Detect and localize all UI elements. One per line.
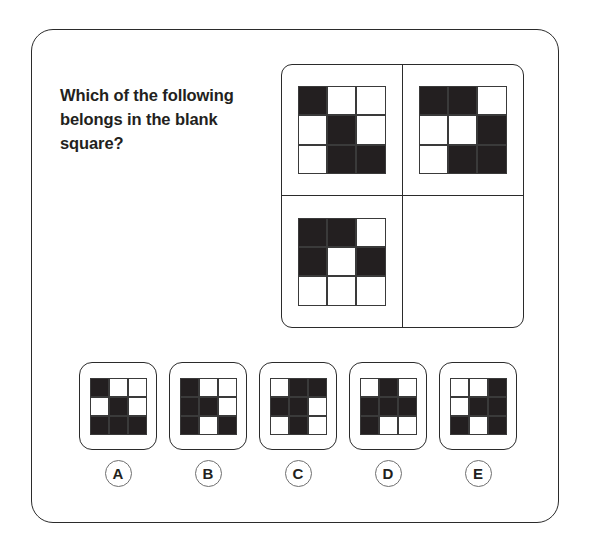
page-root: Which of the following belongs in the bl… (0, 0, 592, 558)
option-label-c[interactable]: C (285, 460, 312, 487)
grid-cell-r1c1 (180, 378, 199, 397)
grid-cell-r2c3 (128, 397, 147, 416)
answer-option-b[interactable]: B (168, 362, 248, 487)
matrix-top-left-grid (298, 86, 386, 174)
grid-cell-r1c1 (419, 86, 448, 115)
grid-cell-r2c2 (327, 247, 356, 276)
option-label-e[interactable]: E (465, 460, 492, 487)
grid-cell-r1c1 (450, 378, 469, 397)
grid-cell-r1c1 (90, 378, 109, 397)
option-card-e[interactable] (439, 362, 517, 450)
option-card-d[interactable] (349, 362, 427, 450)
grid-cell-r1c2 (469, 378, 488, 397)
grid-cell-r2c2 (448, 115, 477, 144)
grid-cell-r1c1 (270, 378, 289, 397)
grid-cell-r1c1 (360, 378, 379, 397)
grid-cell-r2c1 (450, 397, 469, 416)
grid-cell-r3c2 (199, 416, 218, 435)
matrix-cell-bottom-right-blank (403, 196, 524, 327)
grid-cell-r1c3 (218, 378, 237, 397)
option-d-grid (360, 378, 417, 435)
grid-cell-r1c2 (199, 378, 218, 397)
grid-cell-r2c2 (109, 397, 128, 416)
grid-cell-r3c1 (419, 145, 448, 174)
answer-options: ABCDE (78, 362, 518, 494)
option-label-b[interactable]: B (195, 460, 222, 487)
grid-cell-r2c1 (360, 397, 379, 416)
grid-cell-r2c3 (398, 397, 417, 416)
option-b-grid (180, 378, 237, 435)
grid-cell-r1c2 (109, 378, 128, 397)
grid-cell-r2c3 (488, 397, 507, 416)
grid-cell-r1c3 (356, 218, 385, 247)
answer-option-a[interactable]: A (78, 362, 158, 487)
grid-cell-r3c2 (289, 416, 308, 435)
grid-cell-r1c2 (289, 378, 308, 397)
grid-cell-r1c2 (379, 378, 398, 397)
grid-cell-r3c1 (450, 416, 469, 435)
option-c-grid (270, 378, 327, 435)
grid-cell-r2c3 (356, 115, 385, 144)
grid-cell-r2c3 (218, 397, 237, 416)
question-card: Which of the following belongs in the bl… (31, 29, 559, 523)
grid-cell-r3c3 (477, 145, 506, 174)
grid-cell-r1c2 (448, 86, 477, 115)
option-card-a[interactable] (79, 362, 157, 450)
matrix-top-right-grid (419, 86, 507, 174)
grid-cell-r3c2 (469, 416, 488, 435)
grid-cell-r1c2 (327, 86, 356, 115)
grid-cell-r2c1 (419, 115, 448, 144)
matrix-bottom-left-grid (298, 218, 386, 306)
grid-cell-r3c3 (128, 416, 147, 435)
matrix-cell-top-right (403, 65, 524, 196)
grid-cell-r2c1 (90, 397, 109, 416)
grid-cell-r3c2 (448, 145, 477, 174)
grid-cell-r3c1 (270, 416, 289, 435)
grid-cell-r3c3 (356, 276, 385, 305)
grid-cell-r2c1 (298, 247, 327, 276)
grid-cell-r3c2 (327, 145, 356, 174)
grid-cell-r1c3 (128, 378, 147, 397)
matrix-cell-bottom-left (282, 196, 403, 327)
grid-cell-r3c3 (398, 416, 417, 435)
grid-cell-r2c2 (327, 115, 356, 144)
grid-cell-r2c3 (477, 115, 506, 144)
grid-cell-r2c2 (469, 397, 488, 416)
matrix-cell-top-left (282, 65, 403, 196)
answer-option-c[interactable]: C (258, 362, 338, 487)
answer-option-e[interactable]: E (438, 362, 518, 487)
grid-cell-r3c3 (218, 416, 237, 435)
grid-cell-r1c3 (477, 86, 506, 115)
grid-cell-r1c1 (298, 86, 327, 115)
grid-cell-r3c2 (379, 416, 398, 435)
grid-cell-r3c3 (308, 416, 327, 435)
option-label-a[interactable]: A (105, 460, 132, 487)
grid-cell-r2c3 (356, 247, 385, 276)
option-e-grid (450, 378, 507, 435)
grid-cell-r2c3 (308, 397, 327, 416)
grid-cell-r3c1 (180, 416, 199, 435)
grid-cell-r1c3 (488, 378, 507, 397)
option-label-d[interactable]: D (375, 460, 402, 487)
grid-cell-r2c1 (298, 115, 327, 144)
option-card-c[interactable] (259, 362, 337, 450)
grid-cell-r1c3 (356, 86, 385, 115)
grid-cell-r1c3 (398, 378, 417, 397)
grid-cell-r2c2 (289, 397, 308, 416)
grid-cell-r2c2 (199, 397, 218, 416)
option-card-b[interactable] (169, 362, 247, 450)
grid-cell-r1c2 (327, 218, 356, 247)
grid-cell-r3c3 (488, 416, 507, 435)
grid-cell-r3c2 (109, 416, 128, 435)
grid-cell-r2c2 (379, 397, 398, 416)
grid-cell-r1c3 (308, 378, 327, 397)
grid-cell-r3c1 (298, 145, 327, 174)
matrix-puzzle (281, 64, 524, 328)
answer-option-d[interactable]: D (348, 362, 428, 487)
grid-cell-r2c1 (270, 397, 289, 416)
page-title: Which of the following belongs in the bl… (60, 84, 265, 156)
grid-cell-r1c1 (298, 218, 327, 247)
option-a-grid (90, 378, 147, 435)
grid-cell-r3c1 (298, 276, 327, 305)
grid-cell-r3c3 (356, 145, 385, 174)
